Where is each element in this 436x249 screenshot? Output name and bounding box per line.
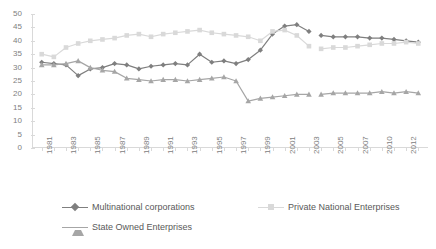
data-point-marker bbox=[319, 33, 324, 38]
data-point-marker bbox=[39, 52, 44, 57]
data-point-marker bbox=[112, 36, 117, 41]
data-point-marker bbox=[294, 22, 299, 27]
data-point-marker bbox=[64, 45, 69, 50]
data-point-marker bbox=[331, 34, 336, 39]
data-point-marker bbox=[306, 29, 311, 34]
y-tick bbox=[31, 148, 35, 149]
data-point-marker bbox=[270, 29, 275, 34]
legend-label: Multinational corporations bbox=[92, 203, 195, 212]
legend-item-state-owned-enterprises: State Owned Enterprises bbox=[62, 222, 192, 232]
data-point-marker bbox=[173, 61, 178, 66]
data-point-marker bbox=[234, 33, 239, 38]
line-chart: 05101520253035404550 1981198319851987198… bbox=[0, 0, 436, 249]
plot-area: 05101520253035404550 1981198319851987198… bbox=[32, 14, 428, 148]
data-point-marker bbox=[380, 41, 385, 46]
data-point-marker bbox=[112, 61, 117, 66]
data-point-marker bbox=[161, 32, 166, 37]
legend-marker-triangle-icon bbox=[62, 222, 88, 232]
legend-marker-diamond-icon bbox=[62, 202, 88, 212]
chart-legend: Multinational corporations Private Natio… bbox=[0, 196, 436, 249]
series-multinational-corporations bbox=[39, 22, 421, 78]
y-tick-label: 20 bbox=[0, 90, 22, 98]
y-tick-label: 25 bbox=[0, 77, 22, 85]
data-point-marker bbox=[52, 55, 57, 60]
y-tick-label: 45 bbox=[0, 23, 22, 31]
y-tick-label: 15 bbox=[0, 104, 22, 112]
series-layer bbox=[32, 14, 428, 148]
data-point-marker bbox=[367, 43, 372, 48]
data-point-marker bbox=[355, 34, 360, 39]
data-point-marker bbox=[136, 66, 141, 71]
data-point-marker bbox=[246, 34, 251, 39]
y-tick-label: 35 bbox=[0, 50, 22, 58]
data-point-marker bbox=[185, 29, 190, 34]
data-point-marker bbox=[124, 33, 129, 38]
y-tick-label: 30 bbox=[0, 64, 22, 72]
data-point-marker bbox=[392, 41, 397, 46]
data-point-marker bbox=[88, 65, 94, 70]
data-point-marker bbox=[379, 36, 384, 41]
legend-marker-square-icon bbox=[258, 202, 284, 212]
data-point-marker bbox=[355, 44, 360, 49]
data-point-marker bbox=[100, 37, 105, 42]
data-point-marker bbox=[88, 39, 93, 44]
data-point-marker bbox=[331, 45, 336, 50]
series-state-owned-enterprises bbox=[39, 58, 421, 103]
y-tick-label: 0 bbox=[0, 144, 22, 152]
data-point-marker bbox=[307, 44, 312, 49]
data-point-marker bbox=[75, 58, 81, 63]
data-point-marker bbox=[222, 32, 227, 37]
data-point-marker bbox=[416, 41, 421, 46]
y-tick-label: 50 bbox=[0, 10, 22, 18]
series-private-national-enterprises bbox=[39, 28, 420, 59]
data-point-marker bbox=[161, 62, 166, 67]
data-point-marker bbox=[148, 64, 153, 69]
data-point-marker bbox=[76, 41, 81, 46]
legend-label: State Owned Enterprises bbox=[92, 223, 192, 232]
legend-label: Private National Enterprises bbox=[288, 203, 400, 212]
data-point-marker bbox=[173, 30, 178, 35]
y-tick-label: 40 bbox=[0, 37, 22, 45]
data-point-marker bbox=[221, 58, 226, 63]
data-point-marker bbox=[124, 62, 129, 67]
data-point-marker bbox=[343, 45, 348, 50]
legend-item-multinational-corporations: Multinational corporations bbox=[62, 202, 195, 212]
legend-item-private-national-enterprises: Private National Enterprises bbox=[258, 202, 400, 212]
data-point-marker bbox=[404, 40, 409, 45]
data-point-marker bbox=[233, 61, 238, 66]
data-point-marker bbox=[149, 34, 154, 39]
data-point-marker bbox=[343, 34, 348, 39]
data-point-marker bbox=[137, 32, 142, 37]
y-tick-label: 5 bbox=[0, 131, 22, 139]
data-point-marker bbox=[295, 33, 300, 38]
data-point-marker bbox=[197, 28, 202, 33]
data-point-marker bbox=[282, 28, 287, 33]
data-point-marker bbox=[258, 39, 263, 44]
data-point-marker bbox=[209, 30, 214, 35]
data-point-marker bbox=[319, 47, 324, 52]
data-point-marker bbox=[367, 36, 372, 41]
y-tick-label: 10 bbox=[0, 117, 22, 125]
